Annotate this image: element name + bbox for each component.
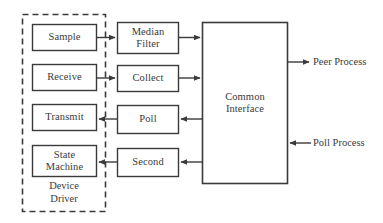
device-driver-group-caption: Device Driver [22,180,106,205]
node-box-sample[interactable] [33,25,97,51]
node-box-transmit[interactable] [33,105,97,131]
node-box-median-filter[interactable] [118,23,179,54]
node-box-second[interactable] [118,149,179,177]
node-box-poll[interactable] [118,106,179,134]
node-box-common-interface[interactable] [203,23,288,184]
node-box-receive[interactable] [33,65,97,91]
node-box-collect[interactable] [118,66,179,92]
node-box-state-machine[interactable] [33,146,97,177]
external-label-peer-process: Peer Process [313,56,366,68]
external-label-poll-process: Poll Process [313,137,365,149]
block-diagram: Sample Receive Transmit State Machine Me… [0,0,383,223]
